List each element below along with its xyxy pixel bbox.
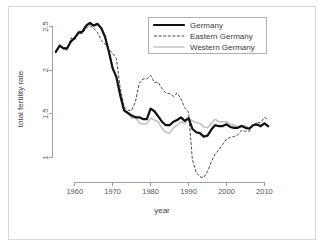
x-tick-label: 1990 xyxy=(180,187,197,196)
chart-legend: GermanyEastern GermanyWestern Germany xyxy=(148,17,266,53)
x-axis-ticks: 196019701980199020002010 xyxy=(66,182,272,196)
legend-label-western-germany: Western Germany xyxy=(190,43,255,52)
y-axis-ticks: 11.522.5 xyxy=(41,21,52,159)
legend-label-germany: Germany xyxy=(190,21,223,30)
legend-label-eastern-germany: Eastern Germany xyxy=(190,32,253,41)
x-tick-label: 1970 xyxy=(104,187,121,196)
y-axis-title: total fertility rate xyxy=(16,70,25,127)
x-tick-label: 1980 xyxy=(142,187,159,196)
x-tick-label: 2000 xyxy=(218,187,235,196)
y-tick-label: 2.5 xyxy=(41,21,50,31)
x-tick-label: 2010 xyxy=(256,187,273,196)
fertility-rate-line-chart: 11.522.5 196019701980199020002010 total … xyxy=(0,0,324,249)
y-tick-label: 1.5 xyxy=(41,109,50,119)
y-tick-label: 2 xyxy=(41,68,50,72)
y-tick-label: 1 xyxy=(41,155,50,159)
figure-root: 11.522.5 196019701980199020002010 total … xyxy=(0,0,324,249)
x-tick-label: 1960 xyxy=(66,187,83,196)
x-axis-title: year xyxy=(154,206,170,215)
